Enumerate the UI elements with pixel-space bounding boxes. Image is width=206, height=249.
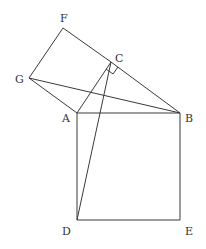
label-e: E <box>185 225 193 238</box>
label-b: B <box>185 112 193 125</box>
segment-cf <box>63 28 111 62</box>
label-g: G <box>15 73 24 86</box>
label-c: C <box>115 52 123 65</box>
right-angle-marker <box>106 67 118 74</box>
segment-cd <box>77 62 111 220</box>
label-d: D <box>62 225 71 238</box>
label-a: A <box>61 112 71 125</box>
segment-fg <box>29 28 63 78</box>
segment-gb <box>29 78 180 113</box>
geometry-diagram: F C G A B D E <box>0 0 206 249</box>
label-f: F <box>60 12 68 25</box>
